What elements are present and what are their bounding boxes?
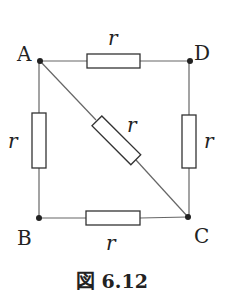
wire-a-c-bottom — [136, 160, 188, 217]
resistor-ab — [32, 113, 46, 168]
resistor-ad — [87, 54, 140, 68]
figure-caption: 図 6.12 — [76, 270, 148, 292]
node-label-d: D — [194, 41, 210, 65]
wire-a-c-top — [40, 61, 96, 120]
resistor-dc — [182, 115, 196, 168]
resistor-bc — [86, 211, 140, 225]
node-c-dot — [185, 214, 191, 220]
node-label-b: B — [17, 226, 32, 250]
node-label-a: A — [16, 42, 32, 66]
resistor-label-ac: r — [127, 113, 138, 137]
node-a-dot — [37, 58, 43, 64]
resistor-label-ad: r — [108, 26, 119, 50]
resistor-label-dc: r — [204, 129, 215, 153]
resistor-label-bc: r — [106, 231, 117, 255]
circuit-diagram: A D B C r r r r r 図 6.12 — [0, 0, 234, 302]
node-d-dot — [187, 58, 193, 64]
resistor-label-ab: r — [8, 129, 19, 153]
wire-b-c-right — [140, 217, 188, 218]
node-label-c: C — [194, 224, 209, 248]
node-b-dot — [36, 215, 42, 221]
